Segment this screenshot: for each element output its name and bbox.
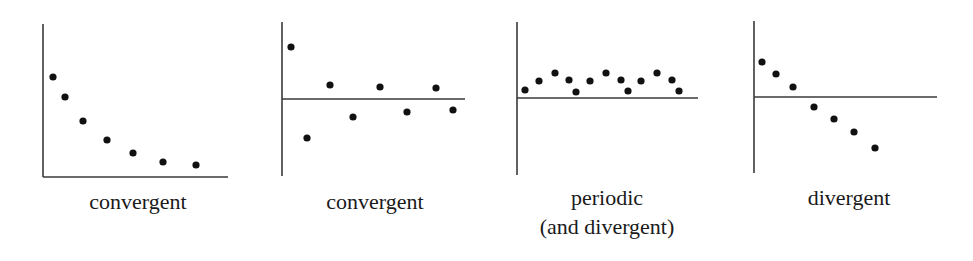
data-point	[586, 77, 593, 84]
data-point	[758, 58, 765, 65]
panel2-label: convergent	[326, 187, 423, 216]
data-point	[159, 158, 166, 165]
panel3-label-line2: (and divergent)	[540, 212, 675, 241]
data-point	[326, 81, 333, 88]
data-point	[535, 77, 542, 84]
data-point	[432, 84, 439, 91]
data-point	[551, 69, 558, 76]
panel4-label: divergent	[808, 183, 891, 212]
data-point	[349, 113, 356, 120]
data-point	[49, 73, 56, 80]
data-point	[572, 88, 579, 95]
data-point	[129, 149, 136, 156]
panel-1	[43, 24, 228, 177]
sequence-behavior-figure	[0, 0, 973, 261]
data-point	[668, 76, 675, 83]
data-point	[772, 70, 779, 77]
data-point	[192, 161, 199, 168]
data-point	[403, 108, 410, 115]
data-point	[521, 86, 528, 93]
data-point	[637, 77, 644, 84]
data-point	[61, 93, 68, 100]
panel-2	[282, 22, 465, 176]
data-point	[675, 87, 682, 94]
data-point	[79, 117, 86, 124]
data-point	[789, 83, 796, 90]
data-point	[303, 134, 310, 141]
panel1-label: convergent	[89, 187, 186, 216]
data-point	[103, 136, 110, 143]
data-point	[617, 76, 624, 83]
data-point	[287, 43, 294, 50]
data-point	[830, 115, 837, 122]
data-point	[449, 106, 456, 113]
panel3-label-line1: periodic	[571, 183, 643, 212]
data-point	[376, 83, 383, 90]
panel-3	[517, 22, 698, 175]
data-point	[850, 128, 857, 135]
data-point	[810, 103, 817, 110]
data-point	[871, 144, 878, 151]
data-point	[565, 76, 572, 83]
data-point	[602, 69, 609, 76]
data-point	[653, 69, 660, 76]
data-point	[624, 87, 631, 94]
panel-4	[754, 21, 937, 173]
